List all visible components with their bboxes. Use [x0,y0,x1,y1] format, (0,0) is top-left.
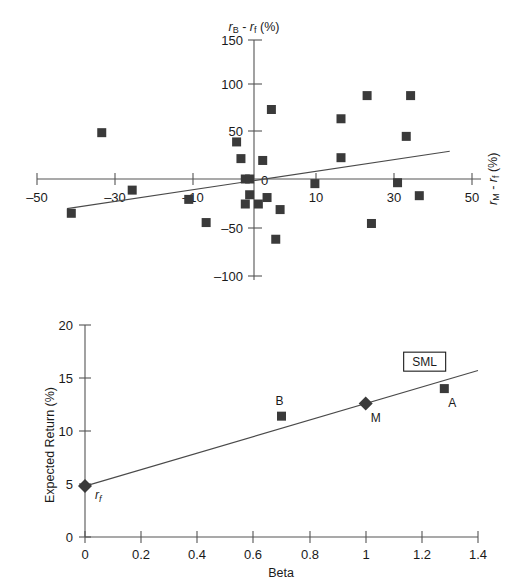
svg-text:30: 30 [387,190,401,205]
scatter-point [267,105,276,114]
scatter-point [245,190,254,199]
sml-point-square [277,412,286,421]
scatter-point [263,193,272,202]
svg-text:20: 20 [59,318,73,333]
chart2-y-tick-labels: 20 15 10 5 0 [59,318,73,545]
chart1-x-axis-title: rM - rf (%) [486,153,501,205]
scatter-point [128,186,137,195]
chart2-x-tick-labels: 0 0.2 0.4 0.6 0.8 1 1.2 1.4 [81,547,487,562]
svg-text:50: 50 [465,190,479,205]
scatter-point [415,191,424,200]
scatter-point [271,235,280,244]
svg-text:100: 100 [221,77,243,92]
svg-text:0.2: 0.2 [132,547,150,562]
scatter-point [184,195,193,204]
chart2-x-axis-title: Beta [268,566,294,580]
svg-text:0: 0 [81,547,88,562]
chart2-y-axis-title: Expected Return (%) [43,387,57,503]
sml-point-label: rf [95,488,103,504]
sml-point-diamond [359,396,373,410]
svg-text:5: 5 [66,477,73,492]
svg-text:–50: –50 [221,221,243,236]
svg-text:150: 150 [221,33,243,48]
sml-legend-annotation: SML [404,352,446,371]
svg-text:10: 10 [309,190,323,205]
chart-characteristic-line: rB - rf (%) rM - rf (%) –50 –30 –10 10 3… [0,0,509,300]
scatter-point [245,175,254,184]
sml-point-label: M [371,411,381,425]
sml-data-points: rfBMA [78,384,456,504]
scatter-point [363,91,372,100]
sml-point-label: B [275,394,283,408]
sml-legend-label: SML [412,355,437,369]
svg-text:10: 10 [59,424,73,439]
sml-point-square [440,384,449,393]
scatter-point [393,178,402,187]
svg-text:1: 1 [362,547,369,562]
scatter-point [367,219,376,228]
scatter-point [402,132,411,141]
scatter-point [337,114,346,123]
figure-container: rB - rf (%) rM - rf (%) –50 –30 –10 10 3… [0,0,509,587]
scatter-point [276,205,285,214]
sml-point-label: A [448,396,456,410]
scatter-point [232,137,241,146]
svg-text:0.8: 0.8 [301,547,319,562]
svg-text:0.4: 0.4 [188,547,206,562]
chart-security-market-line: Expected Return (%) Beta 20 15 10 5 0 [0,300,509,587]
scatter-point [236,154,245,163]
svg-text:0: 0 [66,530,73,545]
svg-text:–50: –50 [26,190,48,205]
svg-text:–100: –100 [214,269,243,284]
scatter-point [337,153,346,162]
svg-text:50: 50 [229,124,243,139]
svg-text:1.4: 1.4 [469,547,487,562]
sml-line [85,371,478,487]
scatter-point [202,218,211,227]
svg-text:1.2: 1.2 [413,547,431,562]
svg-text:0: 0 [261,173,268,188]
scatter-point [97,128,106,137]
scatter-point [310,179,319,188]
scatter-point [258,156,267,165]
scatter-point [406,91,415,100]
scatter-point [67,209,76,218]
svg-text:0.6: 0.6 [244,547,262,562]
sml-point-diamond [78,479,92,493]
chart1-scatter-points [67,91,424,244]
scatter-point [241,200,250,209]
scatter-point [254,200,263,209]
svg-text:15: 15 [59,371,73,386]
